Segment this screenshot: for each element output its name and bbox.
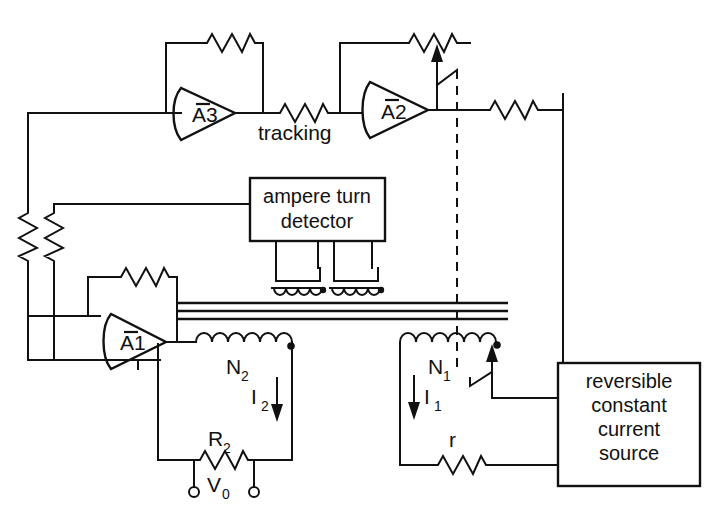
i2-label: I <box>251 385 257 408</box>
source-line2: constant <box>591 394 667 416</box>
resistor-feedback-a3 <box>199 34 263 52</box>
resistor-left-outer <box>19 205 37 269</box>
schematic-canvas: A3 tracking A2 <box>0 0 716 520</box>
resistor-left-inner <box>45 205 63 269</box>
n1-tap-switch[interactable] <box>470 344 563 398</box>
detector-line2: detector <box>281 210 354 232</box>
r-label: r <box>449 428 456 451</box>
r2-label: R <box>208 427 223 450</box>
amplifier-a1-label: A1 <box>120 331 146 354</box>
winding-n1 <box>400 333 496 342</box>
current-arrow-i2: I 2 <box>251 378 283 422</box>
amplifier-a2[interactable]: A2 <box>363 82 429 138</box>
amplifier-a3-label: A3 <box>192 103 218 126</box>
tracking-label: tracking <box>258 121 332 144</box>
i2-sub: 2 <box>261 398 269 414</box>
winding-n2 <box>196 333 292 342</box>
ampere-turn-detector-block[interactable]: ampere turn detector <box>250 178 385 241</box>
circuit-diagram: A3 tracking A2 <box>0 0 716 520</box>
v0-sub: 0 <box>222 486 230 502</box>
n1-polarity-dot <box>493 341 501 349</box>
resistor-a2-output <box>482 101 546 119</box>
magnetic-core <box>178 303 508 319</box>
sense-coil-left <box>272 268 326 295</box>
detector-sense-leads <box>276 241 372 268</box>
amplifier-a2-label: A2 <box>381 100 407 123</box>
source-line4: source <box>599 442 659 464</box>
resistor-feedback-a1 <box>113 268 177 286</box>
current-source-block[interactable]: reversible constant current source <box>558 363 700 486</box>
n1-label: N <box>428 355 443 378</box>
n2-label: N <box>226 355 241 378</box>
amplifier-a3[interactable]: A3 <box>174 88 236 140</box>
resistor-r2 <box>192 451 256 469</box>
n1-sub: 1 <box>443 368 451 384</box>
sense-coil-right <box>330 268 384 295</box>
n2-sub: 2 <box>241 368 249 384</box>
wire-a2-out-right <box>546 94 563 110</box>
i1-sub: 1 <box>434 398 442 414</box>
i1-label: I <box>424 385 430 408</box>
detector-line1: ampere turn <box>263 185 371 207</box>
source-line1: reversible <box>586 370 673 392</box>
source-line3: current <box>598 418 661 440</box>
v0-output-terminals[interactable]: V 0 <box>189 460 259 502</box>
current-arrow-i1: I 1 <box>408 376 442 420</box>
resistor-tracking <box>272 104 336 122</box>
v0-label: V <box>207 473 221 496</box>
resistor-r <box>430 456 494 474</box>
resistor-feedback-a2 <box>401 34 465 52</box>
